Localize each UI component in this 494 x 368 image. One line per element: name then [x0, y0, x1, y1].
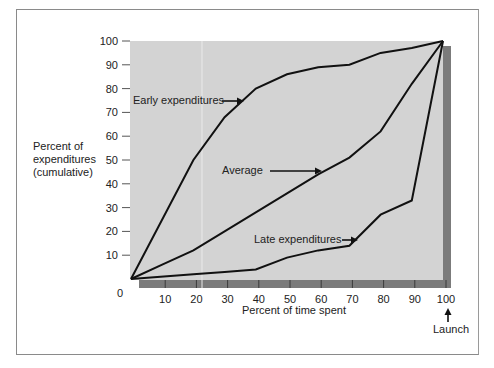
y-tick-label: 80 — [106, 83, 118, 95]
x-tick-label: 20 — [190, 293, 202, 305]
y-tick-label: 90 — [106, 59, 118, 71]
y-label-line-2: expenditures — [33, 153, 96, 166]
y-axis-label: Percent of expenditures (cumulative) — [33, 140, 96, 179]
y-tick-label: 50 — [106, 154, 118, 166]
y-tick-label: 100 — [100, 35, 118, 47]
y-tick-label: 70 — [106, 106, 118, 118]
x-tick-label: 70 — [346, 293, 358, 305]
arrow-launch-head — [445, 308, 452, 315]
annotation-late: Late expenditures — [254, 233, 341, 246]
y-label-line-1: Percent of — [33, 140, 96, 153]
x-tick-label: 80 — [377, 293, 389, 305]
plot-shadow-right — [443, 46, 451, 288]
annotation-average: Average — [222, 164, 263, 177]
plot-shadow-bottom — [139, 280, 451, 288]
x-tick-label: 100 — [437, 293, 455, 305]
x-tick-label: 30 — [221, 293, 233, 305]
y-tick-label: 10 — [106, 249, 118, 261]
y-tick-label: 60 — [106, 130, 118, 142]
annotation-early: Early expenditures — [133, 94, 224, 107]
y-axis: 102030405060708090100 — [100, 35, 130, 261]
y-tick-label: 20 — [106, 225, 118, 237]
y-tick-label: 30 — [106, 202, 118, 214]
origin-label: 0 — [117, 287, 123, 300]
x-tick-label: 10 — [159, 293, 171, 305]
y-label-line-3: (cumulative) — [33, 166, 96, 179]
y-tick-label: 40 — [106, 178, 118, 190]
annotation-launch: Launch — [433, 323, 469, 336]
x-tick-label: 90 — [409, 293, 421, 305]
x-axis-label: Percent of time spent — [242, 304, 346, 317]
